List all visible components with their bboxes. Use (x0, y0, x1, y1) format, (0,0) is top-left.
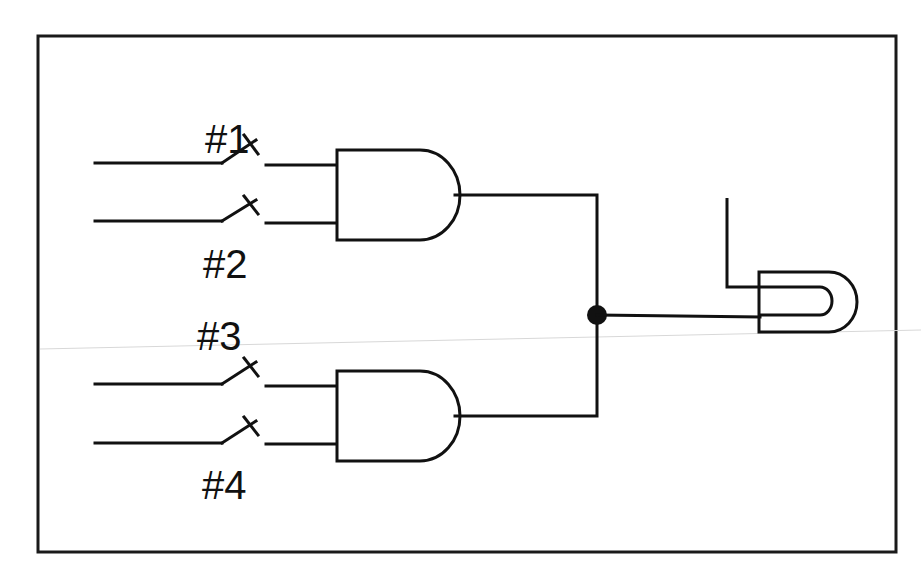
and-gate-2 (337, 371, 460, 461)
lamp-icon (727, 198, 857, 332)
lamp-feed-wire (597, 315, 760, 317)
switch-label-4: #4 (202, 463, 247, 507)
diagram-frame (38, 36, 896, 552)
switch-4 (95, 417, 336, 444)
circuit-diagram: #1 #2 #3 #4 (0, 0, 921, 584)
switch-label-1: #1 (205, 117, 250, 161)
gate-output-wires (455, 195, 597, 416)
switch-label-3: #3 (197, 314, 242, 358)
and-gate-1 (337, 150, 460, 240)
switch-label-2: #2 (203, 242, 248, 286)
switch-2 (95, 196, 336, 223)
switch-3 (95, 358, 336, 386)
